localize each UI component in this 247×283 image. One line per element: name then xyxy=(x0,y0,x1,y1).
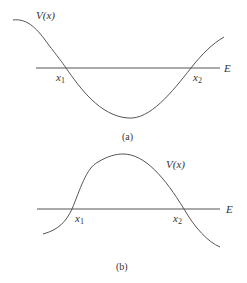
potential-label-b: V(x) xyxy=(166,158,185,171)
turning-point-x1-a: x1 xyxy=(55,71,65,85)
turning-point-x2-b: x2 xyxy=(172,212,182,226)
caption-a: (a) xyxy=(122,131,133,143)
potential-label-a: V(x) xyxy=(36,9,55,22)
potential-curve-b xyxy=(43,154,220,247)
turning-point-x1-b: x1 xyxy=(74,212,84,226)
caption-b: (b) xyxy=(116,261,128,273)
diagram-canvas: V(x) E x1 x2 (a) V(x) E x1 x2 (b) xyxy=(0,0,247,283)
figure-a: V(x) E x1 x2 (a) xyxy=(13,9,231,143)
energy-label-a: E xyxy=(223,62,231,74)
figure-b: V(x) E x1 x2 (b) xyxy=(37,154,233,273)
energy-label-b: E xyxy=(225,203,233,215)
turning-point-x2-a: x2 xyxy=(192,71,202,85)
potential-curve-a xyxy=(13,20,224,118)
